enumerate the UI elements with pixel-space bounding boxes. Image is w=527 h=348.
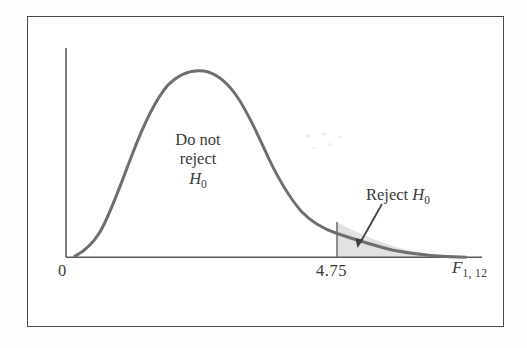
do-not-reject-label: Do not reject H0: [152, 130, 244, 192]
origin-tick-label: 0: [58, 261, 67, 280]
do-not-reject-line2: reject: [180, 149, 217, 168]
x-axis-variable-label: F1, 12: [452, 258, 487, 281]
null-hypothesis-subscript: 0: [201, 178, 207, 190]
reject-hypothesis-symbol: H: [412, 185, 424, 204]
f-statistic-degrees-of-freedom: 1, 12: [462, 267, 487, 279]
critical-value-tick-label: 4.75: [316, 261, 347, 280]
reject-label: Reject H0: [366, 185, 430, 208]
density-curve: [75, 71, 466, 258]
f-statistic-symbol: F: [452, 258, 462, 277]
reject-text: Reject: [366, 185, 408, 204]
do-not-reject-line1: Do not: [175, 130, 220, 149]
reject-hypothesis-subscript: 0: [424, 194, 430, 206]
figure-root: Do not reject H0 Reject H0 0 4.75 F1, 12: [0, 0, 527, 348]
distribution-plot: [0, 0, 527, 348]
null-hypothesis-symbol: H: [189, 169, 201, 188]
scan-artifact: [300, 130, 356, 154]
